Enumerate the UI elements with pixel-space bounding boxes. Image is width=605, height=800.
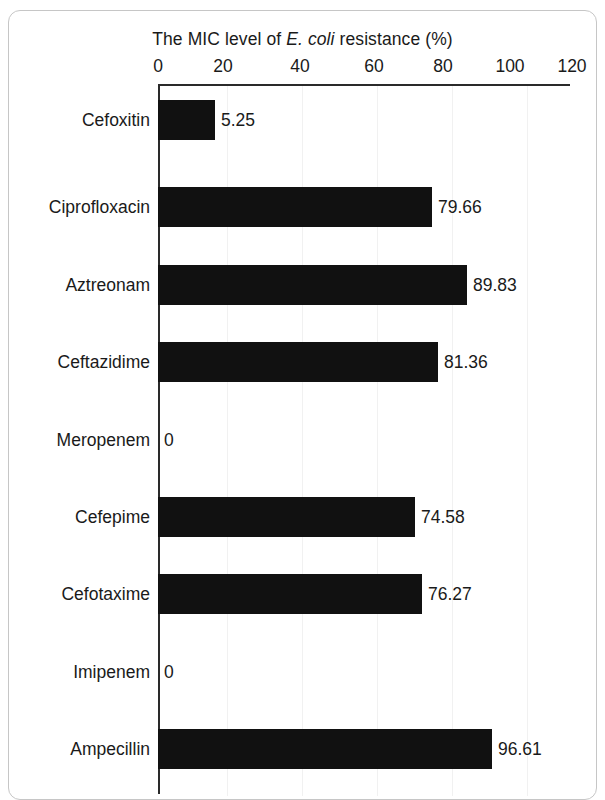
category-label-ciprofloxacin: Ciprofloxacin (49, 187, 150, 227)
chart-title: The MIC level of E. coli resistance (%) (0, 29, 605, 50)
bar-row: Meropenem0 (0, 420, 605, 460)
bar-cefoxitin (158, 100, 215, 140)
x-axis-tick-60: 60 (364, 56, 383, 77)
bar-ampecillin (158, 729, 492, 769)
bar-cefotaxime (158, 574, 422, 614)
bar-value-ciprofloxacin: 79.66 (438, 187, 482, 227)
x-axis-tick-labels: 020406080100120 (0, 56, 605, 80)
category-label-aztreonam: Aztreonam (65, 265, 150, 305)
bar-value-imipenem: 0 (164, 652, 174, 692)
bar-aztreonam (158, 265, 467, 305)
bar-row: Cefoxitin5.25 (0, 100, 605, 140)
bar-value-cefoxitin: 5.25 (221, 100, 255, 140)
x-axis-tick-100: 100 (495, 56, 524, 77)
bar-row: Ceftazidime81.36 (0, 342, 605, 382)
bar-value-ampecillin: 96.61 (498, 729, 542, 769)
bar-row: Imipenem0 (0, 652, 605, 692)
bar-row: Cefepime74.58 (0, 497, 605, 537)
bar-row: Cefotaxime76.27 (0, 574, 605, 614)
x-axis-tick-20: 20 (213, 56, 232, 77)
bar-value-aztreonam: 89.83 (473, 265, 517, 305)
bar-row: Aztreonam89.83 (0, 265, 605, 305)
x-axis-tick-40: 40 (290, 56, 309, 77)
category-label-ampecillin: Ampecillin (70, 729, 150, 769)
bar-cefepime (158, 497, 415, 537)
x-axis-tick-80: 80 (433, 56, 452, 77)
category-label-meropenem: Meropenem (57, 420, 150, 460)
bar-value-ceftazidime: 81.36 (444, 342, 488, 382)
bar-value-cefotaxime: 76.27 (428, 574, 472, 614)
bar-ceftazidime (158, 342, 438, 382)
x-axis-tick-120: 120 (557, 56, 586, 77)
category-label-imipenem: Imipenem (73, 652, 150, 692)
bar-row: Ampecillin96.61 (0, 729, 605, 769)
x-axis-tick-0: 0 (153, 56, 163, 77)
chart-title-prefix: The MIC level of (152, 29, 286, 49)
chart-title-organism: E. coli (286, 29, 334, 49)
chart-title-suffix: resistance (%) (335, 29, 453, 49)
bar-ciprofloxacin (158, 187, 432, 227)
bar-row: Ciprofloxacin79.66 (0, 187, 605, 227)
bar-value-cefepime: 74.58 (421, 497, 465, 537)
category-label-ceftazidime: Ceftazidime (58, 342, 150, 382)
category-label-cefoxitin: Cefoxitin (82, 100, 150, 140)
bar-value-meropenem: 0 (164, 420, 174, 460)
category-label-cefepime: Cefepime (75, 497, 150, 537)
category-label-cefotaxime: Cefotaxime (61, 574, 150, 614)
